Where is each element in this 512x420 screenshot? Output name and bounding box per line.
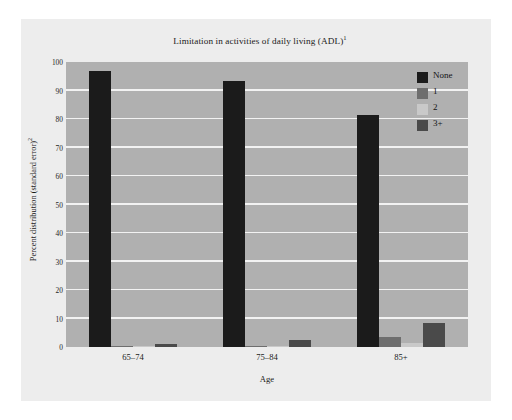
bar: [401, 343, 423, 347]
y-axis-tick-label: 50: [40, 200, 63, 209]
bar: [245, 346, 267, 347]
legend-item: None: [417, 70, 479, 86]
bar: [133, 346, 155, 347]
legend-item-label: None: [433, 70, 453, 80]
bar: [289, 340, 311, 347]
bar: [423, 323, 445, 347]
y-axis-tick-label: 90: [40, 86, 63, 95]
y-axis-tick-label: 80: [40, 115, 63, 124]
bar: [357, 115, 379, 347]
bar: [267, 346, 289, 347]
legend-item-label: 3+: [433, 118, 443, 128]
x-axis-label: Age: [66, 374, 468, 384]
legend-item: 1: [417, 86, 479, 102]
y-axis-tick-label: 30: [40, 257, 63, 266]
y-axis-label-footnote-marker: 2: [27, 138, 33, 141]
legend-swatch-icon: [417, 88, 428, 99]
bar: [379, 337, 401, 347]
gridline: [66, 118, 468, 119]
gridline: [66, 260, 468, 261]
x-axis-tick-label: 65–74: [122, 352, 143, 362]
bar: [89, 71, 111, 347]
x-axis-tick-label: 85+: [394, 352, 407, 362]
gridline: [66, 289, 468, 290]
x-axis-tick-label: 75–84: [256, 352, 277, 362]
bar: [223, 81, 245, 347]
legend-swatch-icon: [417, 120, 428, 131]
legend-item-label: 1: [433, 86, 438, 96]
y-axis-tick-label: 70: [40, 143, 63, 152]
chart-legend: None123+: [417, 70, 479, 134]
legend-item: 3+: [417, 118, 479, 134]
legend-swatch-icon: [417, 72, 428, 83]
gridline: [66, 317, 468, 318]
y-axis-tick-label: 10: [40, 314, 63, 323]
y-axis-tick-label: 100: [40, 58, 63, 67]
chart-title-text: Limitation in activities of daily living…: [173, 36, 343, 46]
y-axis-tick-labels: 0102030405060708090100: [40, 62, 63, 347]
gridline: [66, 146, 468, 147]
chart-figure: Limitation in activities of daily living…: [0, 0, 512, 420]
x-axis-tick-labels: 65–7475–8485+: [66, 352, 468, 368]
chart-title: Limitation in activities of daily living…: [60, 36, 460, 46]
bar: [155, 344, 177, 347]
y-axis-tick-label: 0: [40, 343, 63, 352]
gridline: [66, 89, 468, 90]
chart-title-footnote-marker: 1: [343, 34, 346, 41]
bar: [111, 346, 133, 347]
y-axis-tick-label: 20: [40, 286, 63, 295]
gridline: [66, 175, 468, 176]
y-axis-tick-label: 60: [40, 172, 63, 181]
gridline: [66, 203, 468, 204]
plot-area: [66, 62, 468, 347]
legend-item-label: 2: [433, 102, 438, 112]
gridline: [66, 232, 468, 233]
y-axis-tick-label: 40: [40, 229, 63, 238]
y-axis-label: Percent distribution (standard error)2: [29, 90, 38, 310]
legend-item: 2: [417, 102, 479, 118]
y-axis-label-text: Percent distribution (standard error): [29, 141, 38, 261]
legend-swatch-icon: [417, 104, 428, 115]
